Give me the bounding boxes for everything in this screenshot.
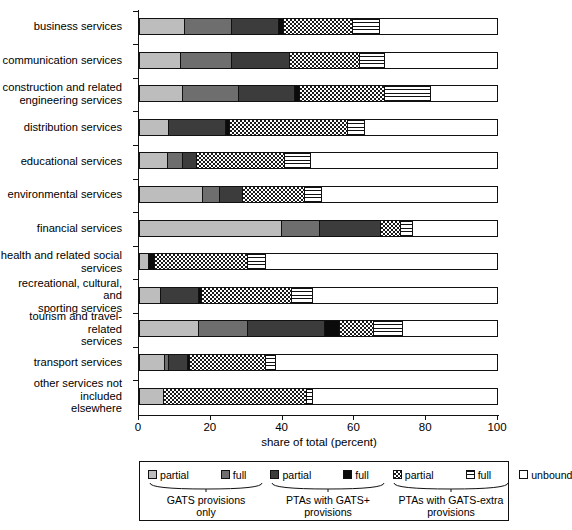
x-axis-tick — [425, 415, 426, 420]
x-axis-tick-label: 40 — [262, 421, 302, 433]
bar-segment-gats-partial — [140, 355, 165, 370]
legend-key-extra-partial: partial — [393, 469, 434, 481]
bar-segment-extra-full — [374, 321, 403, 336]
bar-segment-pta-partial — [320, 221, 381, 236]
category-label: financial services — [0, 212, 130, 245]
bar-segment-pta-partial — [232, 19, 278, 34]
y-axis-tick — [133, 78, 139, 79]
bar-segment-gats-partial — [140, 389, 164, 404]
bar-segment-unbound — [276, 355, 497, 370]
category-label: environmental services — [0, 178, 130, 211]
bar-segment-extra-full — [401, 221, 412, 236]
x-axis-tick-label: 80 — [405, 421, 445, 433]
bar-segment-gats-partial — [140, 288, 161, 303]
stacked-bar — [139, 52, 498, 69]
x-axis-tick — [138, 415, 139, 420]
legend-keys: partialfullpartialfullpartialfullunbound — [148, 467, 500, 482]
legend-swatch-pta-full-icon — [343, 470, 352, 479]
stacked-bar — [139, 320, 498, 337]
bar-segment-unbound — [413, 221, 497, 236]
bar-segment-gats-partial — [140, 254, 149, 269]
category-label: tourism and travel-relatedservices — [0, 312, 130, 345]
bar-segment-unbound — [431, 86, 497, 101]
x-axis-tick-label: 0 — [118, 421, 158, 433]
y-axis-tick — [133, 145, 139, 146]
bar-row: financial services — [0, 212, 524, 245]
legend-swatch-extra-full-icon — [466, 470, 475, 479]
bar-segment-unbound — [380, 19, 497, 34]
bar-segment-extra-partial — [230, 120, 348, 135]
category-label: transport services — [0, 346, 130, 379]
bar-segment-gats-partial — [140, 153, 168, 168]
legend-brace-icon — [270, 483, 386, 492]
bar-segment-gats-full — [282, 221, 320, 236]
x-axis-tick — [282, 415, 283, 420]
category-label: distribution services — [0, 111, 130, 144]
legend-key-label: partial — [282, 469, 311, 481]
bar-segment-gats-partial — [140, 53, 181, 68]
bar-segment-pta-full — [325, 321, 340, 336]
bar-segment-unbound — [322, 187, 497, 202]
legend-key-extra-full: full — [466, 469, 492, 481]
bar-segment-extra-full — [353, 19, 380, 34]
bar-segment-gats-full — [181, 53, 232, 68]
bar-segment-gats-full — [168, 153, 183, 168]
legend-key-unbound: unbound — [519, 469, 572, 481]
stacked-bar — [139, 119, 498, 136]
legend-brace-icon — [392, 483, 510, 492]
bar-segment-gats-partial — [140, 221, 282, 236]
legend-swatch-gats-full-icon — [221, 470, 230, 479]
x-axis-tick-label: 100 — [477, 421, 517, 433]
stacked-bar — [139, 85, 498, 102]
bar-segment-gats-partial — [140, 120, 169, 135]
bar-segment-extra-partial — [284, 19, 353, 34]
bar-segment-extra-full — [360, 53, 385, 68]
x-axis-tick — [353, 415, 354, 420]
bar-segment-extra-full — [292, 288, 313, 303]
bar-segment-extra-partial — [202, 288, 292, 303]
bar-segment-unbound — [365, 120, 497, 135]
stacked-bar — [139, 186, 498, 203]
y-axis-tick — [133, 246, 139, 247]
bar-segment-extra-partial — [155, 254, 249, 269]
category-label: recreational, cultural, andsporting serv… — [0, 279, 130, 312]
category-label: business services — [0, 10, 130, 43]
bar-segment-gats-partial — [140, 86, 183, 101]
stacked-bar — [139, 220, 498, 237]
x-axis-tick — [210, 415, 211, 420]
legend-key-label: unbound — [531, 469, 572, 481]
y-axis-tick — [133, 347, 139, 348]
category-label: construction and relatedengineering serv… — [0, 77, 130, 110]
y-axis-tick — [133, 313, 139, 314]
legend-key-gats-full: full — [221, 469, 247, 481]
bar-segment-extra-full — [305, 187, 321, 202]
legend-group-label: PTAs with GATS+provisions — [270, 494, 386, 518]
bar-row: transport services — [0, 346, 524, 379]
bar-segment-extra-full — [266, 355, 276, 370]
legend-key-label: full — [355, 469, 369, 481]
legend-key-pta-partial: partial — [270, 469, 311, 481]
legend-group-label: PTAs with GATS-extraprovisions — [392, 494, 510, 518]
stacked-bar — [139, 388, 498, 405]
bar-row: recreational, cultural, andsporting serv… — [0, 279, 524, 312]
bar-segment-pta-partial — [232, 53, 290, 68]
bar-row: other services not includedelsewhere — [0, 380, 524, 413]
x-axis-tick-label: 20 — [190, 421, 230, 433]
legend-key-label: partial — [405, 469, 434, 481]
bar-row: distribution services — [0, 111, 524, 144]
category-label: other services not includedelsewhere — [0, 380, 130, 413]
category-label: health and related socialservices — [0, 245, 130, 278]
bar-segment-extra-partial — [381, 221, 401, 236]
stacked-bar — [139, 253, 498, 270]
stacked-bar — [139, 152, 498, 169]
bar-segment-extra-partial — [243, 187, 305, 202]
legend-swatch-gats-partial-icon — [148, 470, 157, 479]
bar-segment-pta-partial — [183, 153, 197, 168]
stacked-bar — [139, 354, 498, 371]
bar-segment-pta-partial — [248, 321, 324, 336]
bar-segment-extra-partial — [197, 153, 285, 168]
bar-segment-extra-partial — [190, 355, 265, 370]
x-axis-tick — [497, 415, 498, 420]
x-axis-line — [138, 415, 499, 416]
bar-segment-extra-partial — [300, 86, 384, 101]
